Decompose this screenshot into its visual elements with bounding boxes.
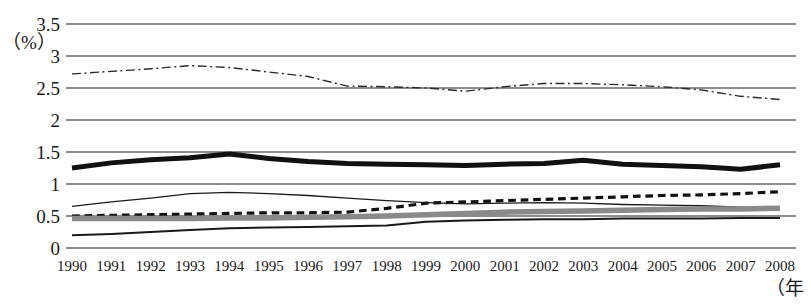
y-axis-tick-label: 3.5: [36, 14, 60, 35]
y-axis-tick-label: 1.5: [36, 142, 60, 163]
series-line-dash-dot-series: [72, 66, 780, 100]
x-axis-tick-label: 2006: [686, 258, 717, 274]
x-axis-tick-label: 2005: [647, 258, 677, 274]
x-axis-tick-labels: 1990199119921993199419951996199719981999…: [57, 258, 795, 274]
y-axis-tick-label: 0: [51, 238, 61, 259]
x-axis-tick-label: 1990: [57, 258, 87, 274]
y-axis-tick-label: 2: [51, 110, 61, 131]
series-group: [72, 66, 780, 236]
x-axis-tick-label: 1991: [96, 258, 126, 274]
x-axis-tick-label: 1998: [372, 258, 402, 274]
series-line-thick-solid-series: [72, 154, 780, 169]
x-axis-tick-label: 2008: [765, 258, 795, 274]
x-axis-tick-label: 1995: [254, 258, 284, 274]
x-axis-tick-label: 2000: [450, 258, 480, 274]
x-axis-tick-label: 1997: [332, 258, 363, 274]
x-axis-tick-label: 1994: [214, 258, 245, 274]
x-axis-tick-label: 1999: [411, 258, 441, 274]
line-chart: （%） （年 00.511.522.533.5 1990199119921993…: [0, 0, 811, 308]
x-axis-tick-label: 2003: [568, 258, 598, 274]
x-axis-tick-label: 2004: [608, 258, 639, 274]
x-axis-tick-label: 2002: [529, 258, 559, 274]
x-axis-tick-label: 1996: [293, 258, 324, 274]
y-axis-tick-label: 2.5: [36, 78, 60, 99]
x-axis-tick-label: 1993: [175, 258, 205, 274]
y-axis-tick-label: 1: [51, 174, 61, 195]
x-axis-tick-label: 2007: [726, 258, 757, 274]
chart-plot-area: 00.511.522.533.5 19901991199219931994199…: [0, 0, 811, 308]
y-axis-tick-label: 3: [51, 46, 61, 67]
x-axis-tick-label: 1992: [136, 258, 166, 274]
y-axis-tick-labels: 00.511.522.533.5: [36, 14, 60, 259]
x-axis-tick-label: 2001: [490, 258, 520, 274]
y-axis-tick-label: 0.5: [36, 206, 60, 227]
